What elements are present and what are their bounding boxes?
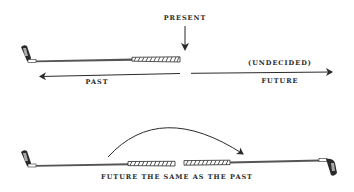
future-arrow-icon — [191, 72, 332, 73]
golf-club-icon — [21, 45, 180, 62]
past-label: PAST — [86, 78, 109, 86]
present-down-arrow-icon — [181, 26, 189, 51]
golf-club-left-icon — [21, 150, 175, 167]
present-label: PRESENT — [164, 14, 207, 22]
future-label: FUTURE — [261, 77, 298, 85]
club-grip — [132, 57, 180, 62]
club-grip — [184, 160, 230, 165]
bottom-diagram: FUTURE THE SAME AS THE PAST — [21, 128, 337, 181]
top-diagram: PRESENT PAST (UNDECIDED) FUTURE — [21, 14, 332, 86]
past-arrow-icon — [40, 74, 180, 77]
caption-label: FUTURE THE SAME AS THE PAST — [101, 173, 253, 181]
undecided-label: (UNDECIDED) — [248, 59, 312, 67]
timeline-diagram: PRESENT PAST (UNDECIDED) FUTURE — [0, 0, 354, 192]
repeat-arc-arrow-icon — [108, 128, 243, 157]
club-grip — [128, 161, 175, 166]
